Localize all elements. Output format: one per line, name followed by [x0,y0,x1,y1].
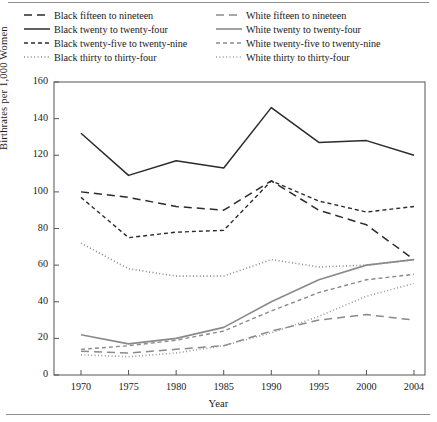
series-line [81,274,414,349]
plot-frame [54,82,425,375]
series-line [81,260,414,344]
x-axis-title: Year [0,398,437,409]
series-line [81,181,414,260]
plot-svg [0,0,437,400]
series-line [81,108,414,176]
series-line [81,181,414,238]
series-line [81,243,414,276]
figure-birthrates-by-race-and-age: Black fifteen to nineteenWhite fifteen t… [0,0,437,422]
bottom-horizontal-rule [6,414,430,415]
